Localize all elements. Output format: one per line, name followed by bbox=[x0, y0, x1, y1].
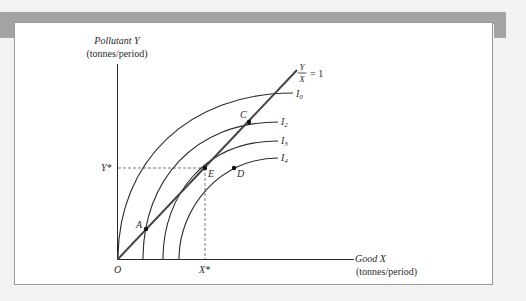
point-a-label: A bbox=[135, 219, 143, 230]
point-d bbox=[232, 166, 236, 170]
ray-label-denominator: X bbox=[298, 74, 305, 84]
curve-i2-label: I2 bbox=[280, 116, 288, 129]
ray-label-equals: = 1 bbox=[310, 68, 323, 79]
point-e bbox=[203, 166, 207, 170]
y-star-label: Y* bbox=[101, 162, 112, 173]
curve-i4 bbox=[179, 158, 278, 259]
curve-i0-label: I0 bbox=[295, 88, 303, 101]
x-star-label: X* bbox=[198, 264, 210, 275]
y-axis-units: (tonnes/period) bbox=[86, 48, 147, 60]
x-axis-units: (tonnes/period) bbox=[356, 266, 417, 278]
origin-label: O bbox=[114, 264, 121, 275]
x-axis-title: Good X bbox=[355, 253, 387, 264]
point-d-label: D bbox=[236, 168, 245, 179]
point-c bbox=[247, 120, 251, 124]
figure-stage: Pollutant Y (tonnes/period) Good X (tonn… bbox=[0, 0, 526, 301]
point-a bbox=[144, 227, 148, 231]
ray-label-numerator: Y bbox=[299, 62, 305, 72]
point-e-label: E bbox=[207, 168, 214, 179]
isoquant-diagram: Pollutant Y (tonnes/period) Good X (tonn… bbox=[0, 0, 526, 301]
curve-i3-label: I3 bbox=[280, 135, 288, 148]
point-c-label: C bbox=[240, 109, 247, 120]
curve-i4-label: I4 bbox=[280, 152, 288, 165]
y-axis-title: Pollutant Y bbox=[93, 35, 141, 46]
